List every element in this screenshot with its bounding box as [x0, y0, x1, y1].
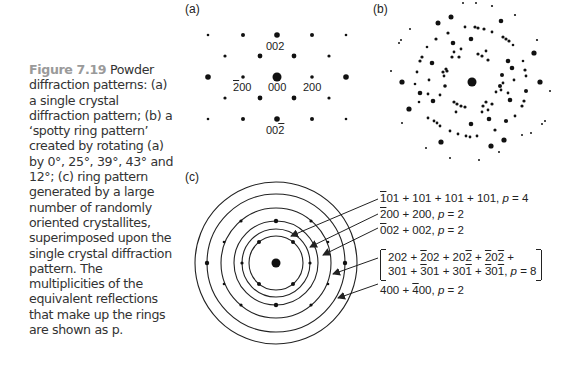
ring-annotation-202-301: 202 + 202 + 202 + 202 +301 + 301 + 301 +…: [388, 250, 536, 278]
overbar-digit: 2: [233, 81, 239, 93]
overbar-digit: 2: [278, 124, 284, 136]
panel-c-spots: [205, 219, 347, 307]
spot-label-200-bar: 200: [233, 81, 251, 93]
ring-annotation-200: 200 + 200, p = 2: [380, 208, 464, 220]
diffraction-figure: [0, 0, 572, 365]
ring-annotation-002: 002 + 002, p = 2: [380, 224, 464, 236]
panel-b-spots: [390, 2, 551, 161]
ring-annotation-400: 400 + 400, p = 2: [380, 284, 464, 296]
ring-annotation-101: 101 + 101 + 101 + 101, p = 4: [380, 192, 528, 204]
spot-label-002-bar: 002: [266, 124, 284, 136]
spot-label-002: 002: [266, 40, 284, 52]
spot-label-200: 200: [303, 81, 321, 93]
spot-label-000: 000: [268, 81, 286, 93]
